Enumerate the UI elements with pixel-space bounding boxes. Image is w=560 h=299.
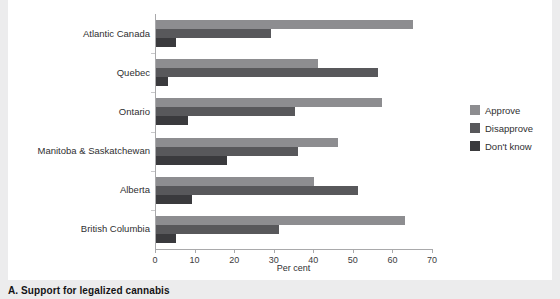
bar-group: British Columbia xyxy=(156,210,432,249)
bar-group: Alberta xyxy=(156,171,432,210)
x-tick-mark xyxy=(313,249,314,253)
x-tick-mark xyxy=(432,249,433,253)
bar-group: Atlantic Canada xyxy=(156,14,432,53)
x-tick-mark xyxy=(392,249,393,253)
bar-approve xyxy=(156,98,382,107)
y-tick-mark xyxy=(151,171,155,172)
chart-legend: ApproveDisapproveDon't know xyxy=(470,101,548,155)
bar-don-t-know xyxy=(156,116,188,125)
bar-approve xyxy=(156,20,413,29)
plot-area: 010203040506070 Atlantic CanadaQuebecOnt… xyxy=(155,14,432,249)
bar-don-t-know xyxy=(156,38,176,47)
legend-swatch-dontknow xyxy=(470,141,480,151)
x-axis-line xyxy=(155,249,432,250)
category-label: Manitoba & Saskatchewan xyxy=(38,146,150,156)
legend-label: Disapprove xyxy=(485,123,533,134)
figure-panel: 010203040506070 Atlantic CanadaQuebecOnt… xyxy=(8,0,552,280)
category-label: Atlantic Canada xyxy=(83,29,150,39)
legend-item: Approve xyxy=(470,101,548,119)
bar-approve xyxy=(156,177,314,186)
x-tick-mark xyxy=(155,249,156,253)
legend-label: Approve xyxy=(485,105,520,116)
category-label: British Columbia xyxy=(81,224,150,234)
bar-approve xyxy=(156,216,405,225)
bar-disapprove xyxy=(156,29,271,38)
bar-disapprove xyxy=(156,186,358,195)
bar-approve xyxy=(156,138,338,147)
bar-approve xyxy=(156,59,318,68)
bar-disapprove xyxy=(156,225,279,234)
legend-swatch-disapprove xyxy=(470,123,480,133)
bar-disapprove xyxy=(156,68,378,77)
y-tick-mark xyxy=(151,132,155,133)
bar-disapprove xyxy=(156,147,298,156)
category-label: Alberta xyxy=(120,185,150,195)
x-axis-title: Per cent xyxy=(155,263,432,273)
figure-caption: A. Support for legalized cannabis xyxy=(8,285,170,296)
y-tick-mark xyxy=(151,92,155,93)
y-tick-mark xyxy=(151,53,155,54)
bar-chart: 010203040506070 Atlantic CanadaQuebecOnt… xyxy=(8,0,552,280)
x-tick-mark xyxy=(274,249,275,253)
y-tick-mark xyxy=(151,210,155,211)
legend-label: Don't know xyxy=(485,141,532,152)
legend-item: Disapprove xyxy=(470,119,548,137)
legend-item: Don't know xyxy=(470,137,548,155)
bar-don-t-know xyxy=(156,195,192,204)
bar-group: Manitoba & Saskatchewan xyxy=(156,132,432,171)
bar-don-t-know xyxy=(156,234,176,243)
category-label: Quebec xyxy=(117,68,150,78)
x-tick-mark xyxy=(234,249,235,253)
category-label: Ontario xyxy=(119,107,150,117)
x-tick-mark xyxy=(353,249,354,253)
bar-group: Quebec xyxy=(156,53,432,92)
legend-swatch-approve xyxy=(470,105,480,115)
bar-disapprove xyxy=(156,107,295,116)
bar-don-t-know xyxy=(156,156,227,165)
bar-group: Ontario xyxy=(156,92,432,131)
x-tick-mark xyxy=(195,249,196,253)
bar-don-t-know xyxy=(156,77,168,86)
